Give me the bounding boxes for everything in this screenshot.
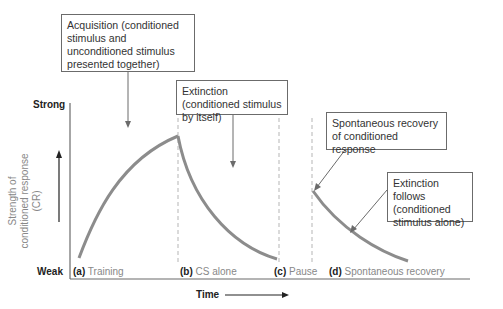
phase-c-label: (c) Pause — [274, 266, 317, 277]
extinction-arrowhead-icon — [230, 161, 236, 168]
y-title-line1: Strength of — [7, 146, 19, 256]
phase-c-letter: (c) — [274, 266, 286, 277]
spontaneous-arrowhead-icon — [314, 183, 321, 191]
acquisition-callout: Acquisition (conditioned stimulus and un… — [61, 14, 195, 72]
acquisition-curve — [79, 136, 178, 258]
phase-b-label: (b) CS alone — [180, 266, 237, 277]
y-arrow-head-icon — [56, 150, 62, 158]
extinction-curve — [178, 136, 277, 259]
extinction-follows-connector — [353, 190, 387, 230]
phase-b-text: CS alone — [196, 266, 237, 277]
acquisition-arrowhead-icon — [125, 121, 131, 128]
phase-a-text: Training — [88, 266, 124, 277]
phase-d-label: (d) Spontaneous recovery — [329, 266, 445, 277]
y-axis-title: Strength of conditioned response (CR) — [7, 146, 43, 256]
y-title-line2: conditioned response (CR) — [19, 146, 43, 256]
extinction-callout: Extinction (conditioned stimulus by itse… — [176, 80, 288, 115]
x-axis-title: Time — [196, 289, 219, 300]
phase-d-letter: (d) — [329, 266, 342, 277]
y-weak-label: Weak — [37, 266, 63, 277]
phase-b-letter: (b) — [180, 266, 193, 277]
y-strong-label: Strong — [33, 99, 65, 110]
time-arrow-head-icon — [282, 292, 289, 298]
extinction-follows-callout: Extinction follows (conditioned stimulus… — [387, 172, 473, 222]
phase-a-letter: (a) — [73, 266, 85, 277]
spontaneous-recovery-callout: Spontaneous recovery of conditioned resp… — [326, 112, 447, 150]
phase-d-text: Spontaneous recovery — [345, 266, 445, 277]
phase-a-label: (a) Training — [73, 266, 124, 277]
phase-c-text: Pause — [289, 266, 317, 277]
